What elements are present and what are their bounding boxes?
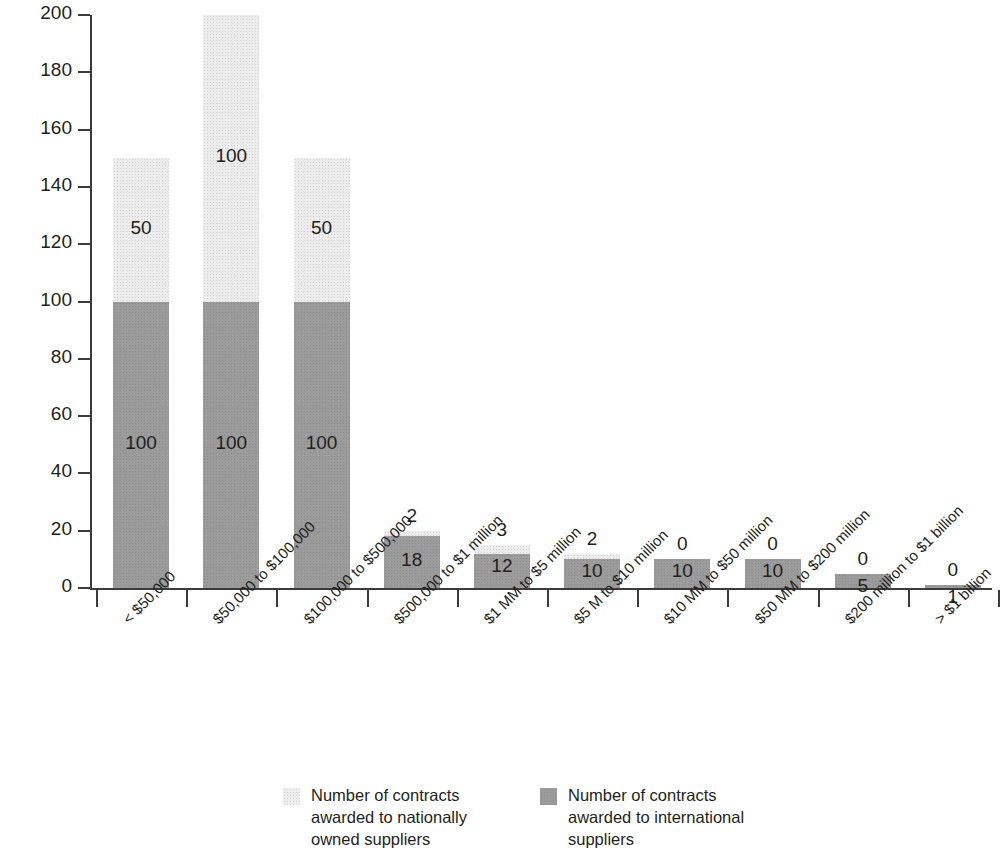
y-axis-tick-label: 80 — [6, 346, 72, 368]
y-axis-tick-label: 120 — [6, 231, 72, 253]
y-axis-tick-label: 200 — [6, 2, 72, 24]
y-axis-tick-label: 20 — [6, 518, 72, 540]
x-axis-tick — [367, 590, 369, 607]
x-axis-tick — [637, 590, 639, 607]
chart-legend: Number of contractsawarded to nationally… — [283, 784, 983, 860]
bar-segment-national[interactable] — [564, 554, 620, 560]
bar-group[interactable]: 123 — [474, 15, 530, 588]
x-axis-tick — [998, 590, 1000, 607]
x-axis-tick — [276, 590, 278, 607]
bar-group[interactable]: 10050 — [113, 15, 169, 588]
x-axis-tick — [547, 590, 549, 607]
y-axis-tick — [78, 415, 90, 417]
x-axis-tick — [457, 590, 459, 607]
y-axis-tick — [78, 243, 90, 245]
legend-swatch-national-icon — [283, 788, 300, 805]
legend-label: Number of contractsawarded to internatio… — [568, 784, 744, 850]
y-axis-tick-label: 180 — [6, 59, 72, 81]
y-axis-tick-label: 60 — [6, 403, 72, 425]
bar-group[interactable]: 50 — [835, 15, 891, 588]
y-axis-tick — [78, 301, 90, 303]
bar-segment-international[interactable] — [113, 302, 169, 589]
x-axis-tick — [186, 590, 188, 607]
bar-segment-national[interactable] — [113, 158, 169, 301]
y-axis-tick-label: 140 — [6, 174, 72, 196]
x-axis-tick — [818, 590, 820, 607]
y-axis-tick — [78, 129, 90, 131]
bar-group[interactable]: 100 — [654, 15, 710, 588]
y-axis-tick — [78, 71, 90, 73]
bar-group[interactable]: 102 — [564, 15, 620, 588]
x-axis-tick — [908, 590, 910, 607]
y-axis-tick — [78, 530, 90, 532]
y-axis-tick-label: 160 — [6, 117, 72, 139]
y-axis-tick — [78, 358, 90, 360]
legend-label: Number of contractsawarded to nationally… — [311, 784, 467, 850]
y-axis-tick — [78, 186, 90, 188]
x-axis-tick — [727, 590, 729, 607]
y-axis-tick-label: 40 — [6, 460, 72, 482]
y-axis-tick — [78, 587, 90, 589]
stacked-bar-chart: Number of contracts 02040608010012014016… — [0, 0, 1003, 860]
y-axis-line — [90, 15, 92, 589]
x-axis-tick — [96, 590, 98, 607]
bar-value-label-national: 0 — [835, 548, 891, 570]
bar-segment-national[interactable] — [203, 15, 259, 302]
y-axis-tick — [78, 472, 90, 474]
legend-swatch-international-icon — [540, 788, 557, 805]
bar-group[interactable]: 10050 — [294, 15, 350, 588]
y-axis-tick — [78, 14, 90, 16]
x-axis-line — [90, 588, 992, 590]
bar-segment-international[interactable] — [203, 302, 259, 589]
bar-segment-national[interactable] — [294, 158, 350, 301]
legend-entry[interactable]: Number of contractsawarded to internatio… — [540, 784, 744, 850]
bar-group[interactable]: 182 — [384, 15, 440, 588]
legend-entry[interactable]: Number of contractsawarded to nationally… — [283, 784, 467, 850]
y-axis-tick-label: 100 — [6, 289, 72, 311]
y-axis-tick-label: 0 — [6, 575, 72, 597]
bar-group[interactable]: 100100 — [203, 15, 259, 588]
bar-group[interactable]: 100 — [745, 15, 801, 588]
